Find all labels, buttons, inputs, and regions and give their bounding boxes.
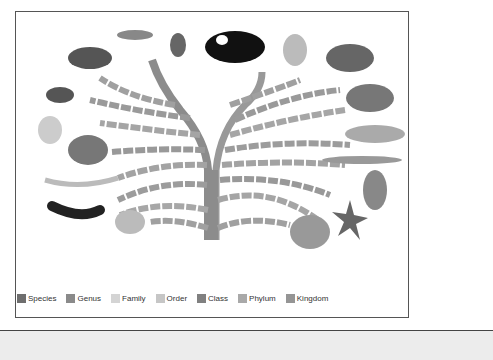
bird-illustration (283, 34, 307, 66)
legend-swatch (66, 294, 75, 303)
legend-swatch (286, 294, 295, 303)
legend-item-species: Species (17, 294, 56, 303)
legend-label: Kingdom (297, 294, 329, 303)
jellyfish-illustration (115, 210, 145, 234)
legend-swatch (238, 294, 247, 303)
legend-label: Genus (77, 294, 101, 303)
bottom-band (0, 331, 493, 360)
legend-item-genus: Genus (66, 294, 101, 303)
frog-illustration (346, 84, 394, 112)
taxonomy-tree (0, 0, 493, 330)
legend-label: Family (122, 294, 146, 303)
sea-cucumber-illustration (52, 206, 100, 214)
feather-worm-illustration (38, 116, 62, 144)
legend: Species Genus Family Order Class Phylum … (17, 290, 338, 306)
legend-item-phylum: Phylum (238, 294, 276, 303)
starfish-illustration (332, 200, 368, 240)
right-branches (218, 80, 350, 228)
legend-swatch (111, 294, 120, 303)
tree-trunk (207, 170, 218, 240)
lancelet-illustration (322, 156, 402, 164)
worm-illustration (45, 178, 118, 185)
left-branches (90, 78, 208, 228)
spider-illustration (46, 87, 74, 103)
legend-label: Order (167, 294, 187, 303)
legend-item-order: Order (156, 294, 187, 303)
legend-label: Species (28, 294, 56, 303)
crab-illustration (68, 47, 112, 69)
cat-illustration (205, 31, 265, 63)
coral-rock-illustration (290, 215, 330, 249)
legend-item-class: Class (197, 294, 228, 303)
legend-item-kingdom: Kingdom (286, 294, 329, 303)
cat-chest-patch (216, 35, 228, 45)
beetle-illustration (170, 33, 186, 57)
legend-item-family: Family (111, 294, 146, 303)
legend-label: Phylum (249, 294, 276, 303)
legend-swatch (156, 294, 165, 303)
sponge-blob-illustration (363, 170, 387, 210)
snail-illustration (68, 135, 108, 165)
fish-illustration (345, 125, 405, 143)
legend-swatch (197, 294, 206, 303)
legend-label: Class (208, 294, 228, 303)
centipede-illustration (117, 30, 153, 40)
legend-swatch (17, 294, 26, 303)
tortoise-illustration (326, 44, 374, 72)
